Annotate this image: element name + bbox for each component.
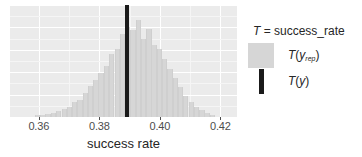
observed-value-line <box>125 5 129 117</box>
histogram-bars <box>10 5 237 117</box>
legend-key-swatch <box>259 69 264 94</box>
legend: T = success_rate T(yrep)T(y) <box>248 24 360 94</box>
legend-key-fill-icon <box>248 43 274 68</box>
plot-panel <box>10 5 237 117</box>
legend-key-swatch <box>248 43 274 68</box>
legend-title: T = success_rate <box>253 24 360 38</box>
legend-item[interactable]: T(yrep) <box>248 42 360 68</box>
x-axis-tick-label: 0.40 <box>150 120 171 132</box>
legend-items: T(yrep)T(y) <box>248 42 360 94</box>
legend-item-label: T(yrep) <box>288 48 319 62</box>
ppc-histogram-figure: 0.360.380.400.42 success rate T = succes… <box>0 0 362 157</box>
x-axis-tick-labels: 0.360.380.400.42 <box>10 120 237 134</box>
x-axis-title: success rate <box>10 136 237 151</box>
x-axis-tick-label: 0.36 <box>28 120 49 132</box>
x-axis-tick-label: 0.42 <box>210 120 231 132</box>
legend-key-line-icon <box>248 69 274 94</box>
legend-title-text: = success_rate <box>260 24 344 38</box>
legend-item-label: T(y) <box>288 74 309 88</box>
x-axis-tick-label: 0.38 <box>89 120 110 132</box>
legend-item[interactable]: T(y) <box>248 68 360 94</box>
